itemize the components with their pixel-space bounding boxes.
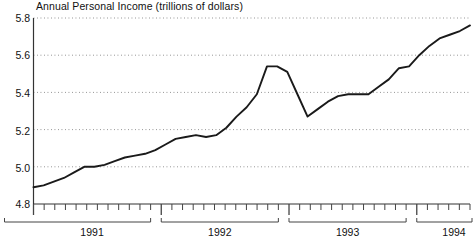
chart-title: Annual Personal Income (trillions of dol… xyxy=(36,0,243,12)
y-tick-label: 5.0 xyxy=(4,162,30,174)
plot-area xyxy=(0,0,476,247)
gridlines xyxy=(34,18,471,167)
y-tick-label: 5.8 xyxy=(4,12,30,24)
x-axis-year-label: 1993 xyxy=(336,226,359,238)
data-series-line xyxy=(34,25,471,187)
chart-container: Annual Personal Income (trillions of dol… xyxy=(0,0,476,247)
y-axis-tick-labels: 5.8 5.6 5.4 5.2 5.0 4.8 xyxy=(0,0,30,247)
x-axis-year-label: 1992 xyxy=(208,226,231,238)
x-axis-year-label: 1994 xyxy=(442,226,465,238)
year-bracket xyxy=(417,218,472,222)
x-axis-year-brackets xyxy=(5,218,473,222)
y-tick-label: 5.2 xyxy=(4,125,30,137)
x-axis-ticks xyxy=(34,204,471,215)
y-tick-label: 4.8 xyxy=(4,198,30,210)
year-bracket xyxy=(289,218,406,222)
year-bracket xyxy=(161,218,278,222)
x-axis-year-label: 1991 xyxy=(80,226,103,238)
axis-lines xyxy=(34,18,471,204)
y-tick-label: 5.6 xyxy=(4,49,30,61)
y-tick-label: 5.4 xyxy=(4,87,30,99)
